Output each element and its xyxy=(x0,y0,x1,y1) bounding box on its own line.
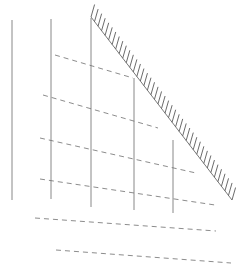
hatch-tick xyxy=(221,174,225,186)
dashed-line-4 xyxy=(40,179,215,205)
hatch-tick xyxy=(190,133,194,145)
hatch-tick xyxy=(154,87,158,99)
hatch-tick xyxy=(179,119,183,131)
hatch-tick xyxy=(165,101,169,113)
hatch-tick xyxy=(193,137,197,149)
hatch-tick xyxy=(112,32,116,44)
hatch-tick xyxy=(133,59,137,71)
hatch-tick xyxy=(211,160,215,172)
hatch-tick xyxy=(186,128,190,140)
hatch-tick xyxy=(98,14,102,26)
hatch-tick xyxy=(140,69,144,81)
hatch-tick xyxy=(151,82,155,94)
hatch-tick xyxy=(91,5,95,17)
vertical-lines-group xyxy=(12,18,173,213)
hatch-tick xyxy=(123,46,127,58)
dashed-lines-group xyxy=(35,55,231,263)
hatch-tick xyxy=(102,18,106,30)
hatch-tick xyxy=(162,96,166,108)
hatch-tick xyxy=(183,123,187,135)
hatch-tick xyxy=(119,41,123,53)
hatch-tick xyxy=(214,165,218,177)
hatch-tick xyxy=(158,91,162,103)
dashed-line-2 xyxy=(43,95,158,128)
hatch-tick xyxy=(197,142,201,154)
hatch-tick xyxy=(200,146,204,158)
hatch-tick xyxy=(207,155,211,167)
hatch-tick xyxy=(172,110,176,122)
hatch-tick xyxy=(218,169,222,181)
hatch-tick xyxy=(204,151,208,163)
hatch-tick xyxy=(232,188,236,200)
hatch-tick xyxy=(126,50,130,62)
dashed-line-5 xyxy=(35,218,216,231)
dashed-line-1 xyxy=(55,55,133,78)
hatch-tick xyxy=(116,37,120,49)
hatch-tick xyxy=(228,183,232,195)
hatch-tick xyxy=(147,78,151,90)
hatch-tick xyxy=(176,114,180,126)
dashed-line-6 xyxy=(56,250,231,263)
line-drawing-svg xyxy=(0,0,236,273)
hatched-slope-group xyxy=(91,5,236,200)
hatch-tick xyxy=(144,73,148,85)
hatch-tick xyxy=(105,23,109,35)
hatch-tick xyxy=(137,64,141,76)
hatch-tick xyxy=(225,178,229,190)
hatch-tick xyxy=(130,55,134,67)
drawing-canvas-root xyxy=(0,0,236,273)
hatch-tick xyxy=(95,9,99,21)
hatch-tick xyxy=(109,27,113,39)
hatch-tick xyxy=(169,105,173,117)
